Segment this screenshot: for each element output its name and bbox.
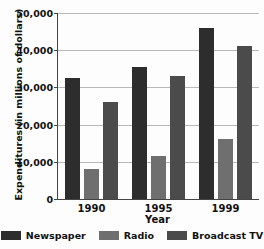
y-tick-label: 10,000 xyxy=(16,156,53,167)
legend-item-radio: Radio xyxy=(99,230,154,241)
legend-label: Newspaper xyxy=(26,230,86,241)
x-tick-label-1990: 1990 xyxy=(78,203,106,214)
chart-legend: NewspaperRadioBroadcast TV xyxy=(0,230,264,241)
bar-group: 1999 xyxy=(192,13,259,199)
bar-newspaper-1999 xyxy=(199,28,214,199)
x-axis-title: Year xyxy=(57,214,258,225)
legend-swatch-icon xyxy=(99,231,119,240)
bar-chart-figure: Expenditures (in millions of dollars) 01… xyxy=(0,0,264,249)
legend-label: Radio xyxy=(124,230,154,241)
bar-newspaper-1990 xyxy=(65,78,80,199)
chart-title-clipped xyxy=(0,0,264,6)
x-tick-label-1995: 1995 xyxy=(145,203,173,214)
y-axis-title: Expenditures (in millions of dollars) xyxy=(13,11,24,201)
bar-radio-1990 xyxy=(84,169,99,199)
legend-label: Broadcast TV xyxy=(192,230,263,241)
y-tick-mark xyxy=(54,199,58,200)
legend-swatch-icon xyxy=(167,231,187,240)
bar-radio-1999 xyxy=(218,139,233,199)
y-tick-label: 0 xyxy=(46,194,53,205)
y-tick-label: 20,000 xyxy=(16,119,53,130)
bar-newspaper-1995 xyxy=(132,67,147,199)
legend-swatch-icon xyxy=(1,231,21,240)
bar-group: 1990 xyxy=(58,13,125,199)
bar-radio-1995 xyxy=(151,156,166,199)
legend-item-broadcast-tv: Broadcast TV xyxy=(167,230,263,241)
y-tick-label: 30,000 xyxy=(16,82,53,93)
y-tick-label: 40,000 xyxy=(16,45,53,56)
plot-area: 010,00020,00030,00040,00050,000199019951… xyxy=(57,13,259,200)
bar-broadcast-tv-1995 xyxy=(170,76,185,199)
y-tick-label: 50,000 xyxy=(16,8,53,19)
bar-broadcast-tv-1990 xyxy=(103,102,118,199)
bar-group: 1995 xyxy=(125,13,192,199)
bar-broadcast-tv-1999 xyxy=(237,46,252,199)
legend-item-newspaper: Newspaper xyxy=(1,230,86,241)
x-tick-label-1999: 1999 xyxy=(212,203,240,214)
